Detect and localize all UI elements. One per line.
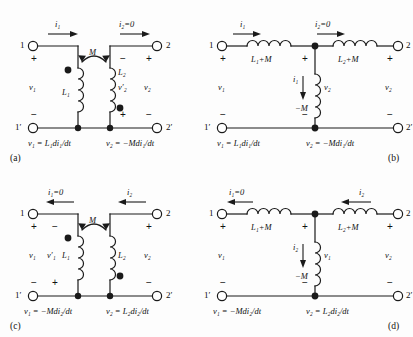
voltage-label-branch: v₁ (324, 251, 331, 260)
terminal-1p (28, 291, 37, 300)
terminal-label-2p: 2′ (406, 123, 412, 132)
voltage-label-v2prime: v′₂ (118, 83, 127, 92)
voltage-label-v1: v₁ (218, 251, 225, 260)
voltage-label-v2: v₂ (385, 251, 392, 260)
current-label-branch: i₂ (293, 243, 298, 252)
junction-dot-bottom (312, 293, 319, 300)
terminal-1 (217, 209, 226, 218)
current-arrowhead-branch (300, 92, 306, 100)
equation-v2: v₂ = L₂di₂/dt (306, 307, 349, 316)
polarity-v1-minus: − (220, 110, 226, 120)
terminal-1p (217, 123, 226, 132)
current-arrowhead-i1 (70, 31, 78, 37)
current-arrowhead-i2 (337, 31, 345, 37)
equation-v1: v₁ = L₁di₁/dt (217, 139, 260, 148)
figure-container: 1 2 1′ 2′ i₁ i₂=0 M L₁ L₂ + − v₁ − + v′₂… (0, 0, 413, 337)
polarity-branch-plus: + (302, 222, 308, 232)
voltage-label-v1: v₁ (29, 251, 36, 260)
current-arrowhead-i1 (227, 199, 235, 205)
voltage-label-v1: v₁ (218, 83, 225, 92)
current-label-i2: i₂=0 (315, 20, 330, 29)
polarity-branch-minus: − (302, 110, 308, 120)
panel-a: 1 2 1′ 2′ i₁ i₂=0 M L₁ L₂ + − v₁ − + v′₂… (0, 0, 206, 168)
terminal-label-1: 1 (20, 41, 25, 50)
current-label-i1: i₁ (55, 20, 60, 29)
equation-v2: v₂ = −Mdi₁/dt (106, 139, 154, 148)
polarity-v1-plus: + (220, 222, 226, 232)
coil-l2 (110, 68, 116, 112)
current-label-i2: i₂ (127, 188, 132, 197)
current-arrowhead-branch (300, 260, 306, 268)
junction-dot-right (107, 125, 113, 131)
current-arrowhead-i2 (142, 31, 150, 37)
junction-dot-bottom (312, 125, 319, 132)
junction-dot-left (75, 293, 81, 299)
terminal-label-1p: 1′ (204, 123, 210, 132)
polarity-v1-minus: − (220, 278, 226, 288)
coil-shunt-inductor (315, 242, 321, 286)
terminal-2p (393, 123, 402, 132)
terminal-1 (28, 41, 37, 50)
panel-caption-c: (c) (10, 322, 21, 332)
polarity-v1prime-minus: − (52, 222, 58, 232)
equation-v1: v₁ = −Mdi₂/dt (213, 307, 261, 316)
polarity-v2-minus: − (387, 278, 393, 288)
polarity-v2prime-plus: + (120, 110, 126, 120)
junction-dot-top (312, 43, 319, 50)
dot-marker-l1 (65, 235, 72, 242)
polarity-branch-plus: + (302, 54, 308, 64)
polarity-v2-plus: + (387, 54, 393, 64)
polarity-v1-minus: − (31, 110, 37, 120)
element-label-left-inductor: L₁+M (251, 223, 272, 232)
terminal-label-1: 1 (20, 209, 25, 218)
polarity-v2-minus: − (146, 110, 152, 120)
terminal-label-1p: 1′ (204, 291, 210, 300)
voltage-label-v1: v₁ (29, 83, 36, 92)
current-label-i2: i₂ (359, 188, 364, 197)
current-arrowhead-i2 (341, 199, 349, 205)
terminal-label-1p: 1′ (15, 123, 21, 132)
coupling-arrowhead-left (78, 223, 86, 230)
polarity-v2-plus: + (387, 222, 393, 232)
coupling-label-m: M (89, 216, 96, 225)
terminal-2p (152, 123, 161, 132)
current-label-i1: i₁ (240, 20, 245, 29)
coil-label-l2: L₂ (118, 251, 126, 260)
equation-v2: v₂ = −Mdi₁/dt (306, 139, 354, 148)
current-arrowhead-i1 (253, 31, 261, 37)
terminal-label-2p: 2′ (166, 291, 172, 300)
terminal-label-2: 2 (406, 209, 411, 218)
coil-label-l1: L₁ (62, 88, 70, 97)
dot-marker-l2 (117, 273, 124, 280)
coupling-arrowhead-right (102, 223, 110, 230)
terminal-1 (28, 209, 37, 218)
terminal-2 (152, 41, 161, 50)
current-arrowhead-i2 (118, 199, 126, 205)
coil-left-inductor (247, 41, 291, 46)
coupling-arrowhead-right (102, 55, 110, 62)
coil-l2 (110, 236, 116, 280)
polarity-v1-minus: − (31, 278, 37, 288)
dot-marker-l1 (65, 67, 72, 74)
current-label-branch: i₁ (293, 75, 298, 84)
coil-l1 (78, 236, 84, 280)
element-label-right-inductor: L₂+M (338, 55, 359, 64)
voltage-label-v2: v₂ (385, 83, 392, 92)
current-arrowhead-i1 (46, 199, 54, 205)
polarity-v2-plus: + (146, 54, 152, 64)
coil-label-l1: L₁ (62, 251, 70, 260)
polarity-v2-minus: − (146, 278, 152, 288)
terminal-2p (152, 291, 161, 300)
equation-v1: v₁ = L₁di₁/dt (28, 139, 71, 148)
junction-dot-right (107, 293, 113, 299)
element-label-right-inductor: L₂+M (338, 223, 359, 232)
terminal-label-2: 2 (406, 41, 411, 50)
polarity-v1-plus: + (31, 222, 37, 232)
panel-caption-b: (b) (388, 154, 399, 164)
coil-shunt-inductor (315, 74, 321, 118)
coil-left-inductor (247, 209, 291, 215)
panel-caption-d: (d) (388, 322, 399, 332)
terminal-label-2: 2 (166, 209, 171, 218)
terminal-2 (152, 209, 161, 218)
terminal-2 (393, 209, 402, 218)
